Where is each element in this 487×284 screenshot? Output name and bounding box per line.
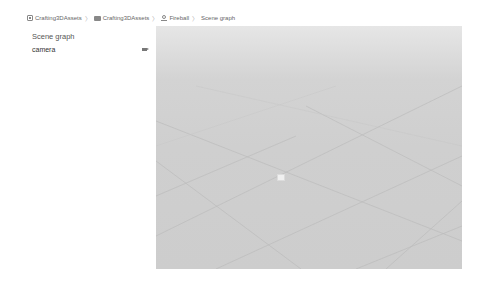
breadcrumb: Crafting3DAssets 〉 Crafting3DAssets 〉 Fi… — [27, 13, 235, 23]
breadcrumb-separator: 〉 — [152, 14, 158, 23]
folder-icon — [94, 16, 101, 21]
breadcrumb-current: Scene graph — [201, 15, 235, 21]
breadcrumb-label: Fireball — [169, 15, 189, 21]
camera-marker[interactable] — [277, 174, 285, 181]
breadcrumb-project[interactable]: Crafting3DAssets — [27, 15, 82, 21]
breadcrumb-folder[interactable]: Crafting3DAssets — [94, 15, 150, 21]
scene-graph-panel: Scene graph camera — [32, 32, 150, 54]
panel-title: Scene graph — [32, 32, 150, 41]
breadcrumb-separator: 〉 — [192, 14, 198, 23]
breadcrumb-label: Scene graph — [201, 15, 235, 21]
asset-icon — [161, 15, 167, 21]
tree-item-label: camera — [32, 46, 55, 53]
breadcrumb-separator: 〉 — [85, 14, 91, 23]
3d-viewport[interactable] — [156, 26, 462, 269]
breadcrumb-label: Crafting3DAssets — [35, 15, 82, 21]
breadcrumb-asset[interactable]: Fireball — [161, 15, 189, 21]
ground-grid — [156, 26, 462, 269]
breadcrumb-label: Crafting3DAssets — [103, 15, 150, 21]
camera-icon — [142, 48, 147, 51]
tree-item-camera[interactable]: camera — [32, 44, 150, 54]
project-icon — [27, 15, 33, 21]
